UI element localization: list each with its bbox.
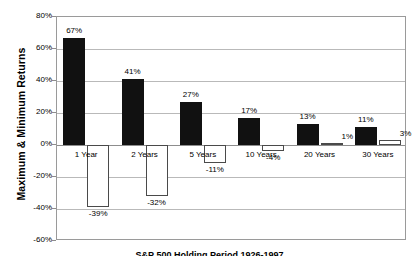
- x-axis-category-label: 1 Year: [57, 151, 115, 159]
- y-axis-tick-label: 40%: [20, 76, 52, 84]
- zero-line: [57, 145, 405, 146]
- gridline: [57, 81, 405, 82]
- chart-figure: Maximum & Minimum Returns 80%60%40%20%0%…: [0, 0, 419, 256]
- y-axis-tick-mark: [52, 240, 56, 241]
- bar-value-label-minimum: -32%: [142, 199, 172, 207]
- bar-value-label-minimum: 1%: [342, 133, 354, 141]
- bar-value-label-minimum: -11%: [200, 166, 230, 174]
- y-axis-tick-label: -60%: [20, 236, 52, 244]
- bar-value-label-maximum: 67%: [60, 27, 88, 35]
- chart-caption: S&P 500 Holding Period 1926-1997: [0, 250, 419, 256]
- plot-area: 67%-39%1 Year41%-32%2 Years27%-11%5 Year…: [56, 16, 406, 240]
- y-axis-tick-label: 0%: [20, 140, 52, 148]
- bar-maximum: [63, 38, 85, 145]
- x-axis-category-label: 5 Years: [174, 151, 232, 159]
- y-axis-tick-label: 80%: [20, 12, 52, 20]
- bar-value-label-minimum: 3%: [400, 130, 412, 138]
- x-axis-category-label: 2 Years: [115, 151, 173, 159]
- bar-maximum: [122, 79, 144, 145]
- y-axis-tick-label: -20%: [20, 172, 52, 180]
- bar-maximum: [355, 127, 377, 145]
- x-axis-category-label: 10 Years: [232, 151, 290, 159]
- x-axis-category-label: 30 Years: [349, 151, 407, 159]
- y-axis-tick-label: -40%: [20, 204, 52, 212]
- gridline: [57, 49, 405, 50]
- bar-maximum: [238, 118, 260, 145]
- gridline: [57, 209, 405, 210]
- bar-value-label-maximum: 27%: [177, 91, 205, 99]
- x-axis-category-label: 20 Years: [290, 151, 348, 159]
- bar-value-label-maximum: 17%: [235, 107, 263, 115]
- bar-maximum: [297, 124, 319, 145]
- bar-minimum: [379, 140, 401, 145]
- bar-value-label-maximum: 13%: [294, 113, 322, 121]
- y-axis-tick-label: 20%: [20, 108, 52, 116]
- gridline: [57, 177, 405, 178]
- bar-minimum: [321, 143, 343, 145]
- bar-value-label-maximum: 41%: [119, 68, 147, 76]
- gridline: [57, 113, 405, 114]
- bar-value-label-minimum: -39%: [83, 210, 113, 218]
- y-axis-tick-label: 60%: [20, 44, 52, 52]
- bar-maximum: [180, 102, 202, 145]
- bar-value-label-maximum: 11%: [352, 116, 380, 124]
